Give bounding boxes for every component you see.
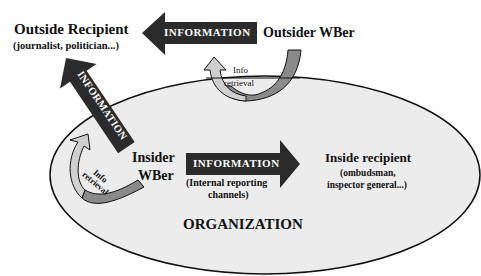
whistleblowing-diagram: Outside Recipient (journalist, politicia… [0, 0, 481, 276]
inside-recipient-subtitle-1: (ombudsman, [340, 168, 396, 178]
internal-caption-line1: (Internal reporting [186, 177, 267, 188]
inside-recipient-title: Inside recipient [325, 150, 411, 166]
insider-wber-line2: WBer [138, 168, 174, 184]
insider-wber-line1: Insider [132, 150, 175, 166]
internal-caption-line2: channels) [208, 189, 249, 200]
organization-label: ORGANIZATION [183, 216, 303, 233]
inside-recipient-subtitle-2: inspector general...) [327, 180, 407, 190]
outside-recipient-title: Outside Recipient [14, 21, 129, 38]
top-information-label: INFORMATION [164, 26, 251, 38]
outsider-wber-label: Outsider WBer [263, 25, 355, 41]
outside-recipient-subtitle: (journalist, politician...) [13, 40, 119, 51]
internal-information-label: INFORMATION [193, 157, 280, 169]
outsider-retrieval-label-2: retrieval [224, 78, 254, 88]
outsider-retrieval-label-1: Info [233, 65, 248, 75]
